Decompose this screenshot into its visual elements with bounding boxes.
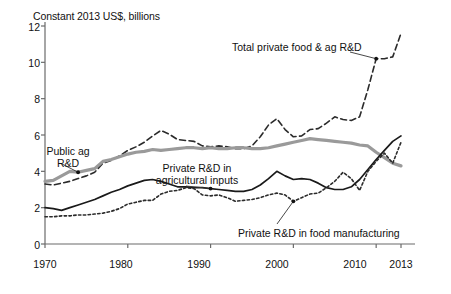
chart-container: Constant 2013 US$, billions 12 10 8 6 4 … [0, 0, 451, 294]
annotation-point-private-rd-food-manufacturing [291, 199, 295, 203]
annotation-leader-total-private-food-ag-rd [350, 52, 376, 59]
annotation-leader-private-rd-food-manufacturing [277, 201, 293, 224]
chart-plot-area [0, 0, 451, 294]
series-line-total-private-food-ag-r-d [45, 33, 401, 185]
annotation-point-private-rd-agricultural-inputs [209, 187, 213, 191]
series-line-private-r-d-in-food-manufacturing [45, 142, 401, 216]
annotation-point-total-private-food-ag-rd [374, 57, 378, 61]
series-line-public-ag-r-d [45, 139, 401, 182]
annotation-point-public-ag-rd [76, 170, 80, 174]
